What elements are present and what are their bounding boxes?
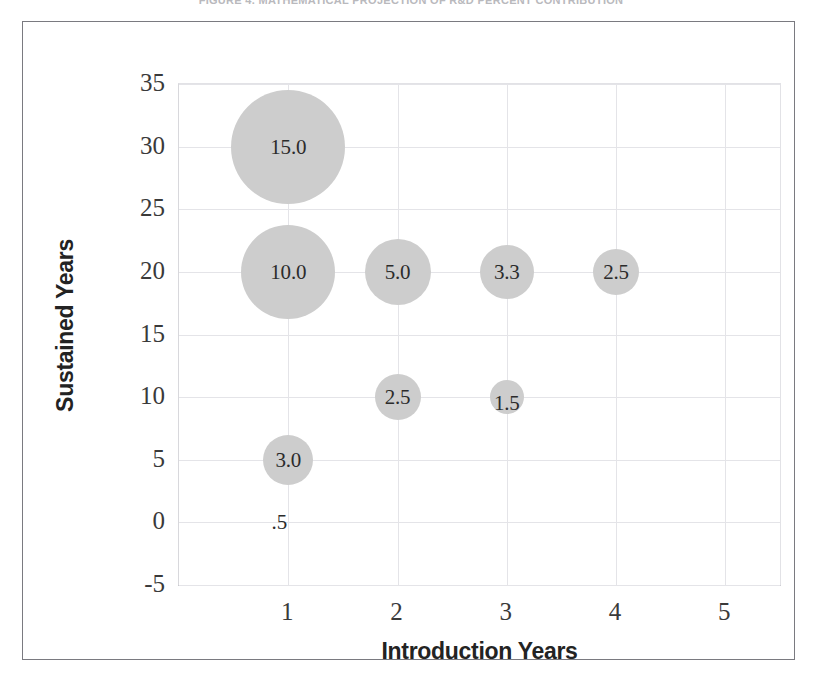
x-axis-title: Introduction Years xyxy=(178,638,781,665)
gridline-vertical xyxy=(507,84,508,585)
gridline-vertical xyxy=(398,84,399,585)
plot-area: 15.010.05.03.32.52.51.53.0.5 xyxy=(178,83,781,586)
x-axis-tick-label: 3 xyxy=(500,598,513,626)
y-axis-tick-label: 35 xyxy=(140,69,165,97)
bubble-value-label: 2.5 xyxy=(385,385,411,410)
gridline-horizontal xyxy=(179,585,780,586)
y-axis-tick-label: 5 xyxy=(153,445,166,473)
y-axis-tick-label: 20 xyxy=(140,257,165,285)
bubble-value-label: 1.5 xyxy=(494,391,520,416)
bubble-value-label: 15.0 xyxy=(270,134,306,159)
bubble-value-label: 10.0 xyxy=(270,259,306,284)
y-axis-title: Sustained Years xyxy=(52,216,79,436)
bubble-value-label: 3.3 xyxy=(494,259,520,284)
gridline-vertical xyxy=(616,84,617,585)
gridline-horizontal xyxy=(179,209,780,210)
x-axis-tick-label: 1 xyxy=(281,598,294,626)
y-axis-tick-label: 0 xyxy=(153,507,166,535)
y-axis-tick-label: 25 xyxy=(140,194,165,222)
bubble-value-label: .5 xyxy=(272,510,287,535)
gridline-horizontal xyxy=(179,522,780,523)
bubble-value-label: 3.0 xyxy=(275,447,301,472)
bubble-value-label: 2.5 xyxy=(603,259,629,284)
y-axis-tick-label: -5 xyxy=(144,570,165,598)
bubble-value-label: 5.0 xyxy=(385,259,411,284)
figure-caption: FIGURE 4. MATHEMATICAL PROJECTION OF R&D… xyxy=(0,0,822,5)
x-axis-tick-labels: 12345 xyxy=(178,598,781,630)
figure-frame: 15.010.05.03.32.52.51.53.0.5 35302520151… xyxy=(22,21,795,660)
y-axis-tick-label: 30 xyxy=(140,132,165,160)
gridline-vertical xyxy=(725,84,726,585)
x-axis-tick-label: 5 xyxy=(718,598,731,626)
y-axis-tick-label: 10 xyxy=(140,382,165,410)
y-axis-tick-labels: 35302520151050-5 xyxy=(101,83,165,586)
y-axis-tick-label: 15 xyxy=(140,320,165,348)
gridline-horizontal xyxy=(179,397,780,398)
x-axis-tick-label: 4 xyxy=(609,598,622,626)
x-axis-tick-label: 2 xyxy=(390,598,403,626)
gridline-horizontal xyxy=(179,335,780,336)
gridline-horizontal xyxy=(179,84,780,85)
